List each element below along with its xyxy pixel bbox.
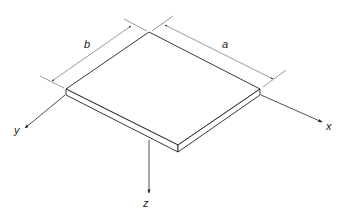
extension-line (152, 16, 173, 31)
plate (66, 32, 260, 152)
dimension-label-b: b (84, 38, 90, 50)
plate-diagram: b a y x z (0, 0, 346, 219)
y-axis (25, 95, 65, 128)
plate-top-face (66, 32, 260, 145)
x-axis-label: x (325, 120, 332, 132)
extension-line (263, 70, 286, 87)
dimension-label-a: a (222, 38, 228, 50)
y-axis-label: y (13, 124, 21, 136)
x-axis (261, 95, 322, 122)
extension-line (40, 76, 64, 88)
z-axis-label: z (142, 197, 149, 209)
extension-line (124, 19, 147, 31)
